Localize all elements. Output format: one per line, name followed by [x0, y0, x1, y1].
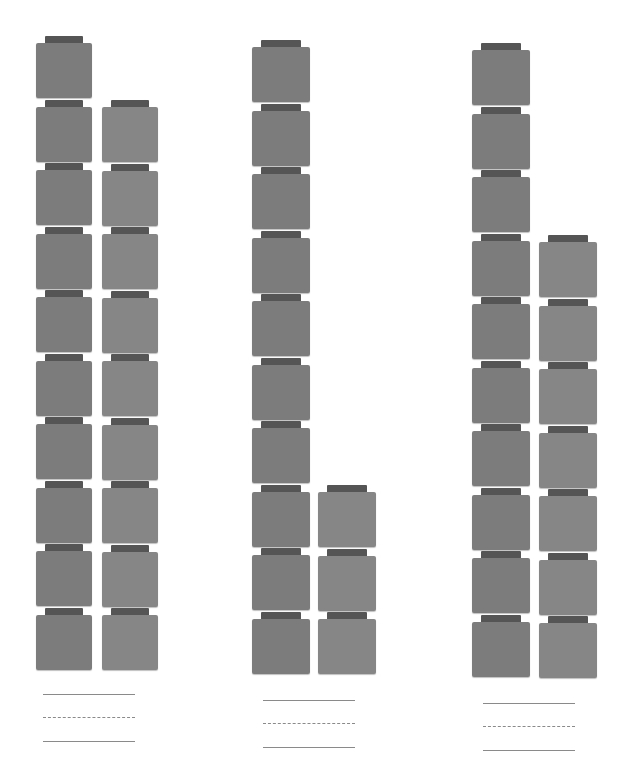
unit-cube	[539, 426, 597, 490]
cube-face	[102, 425, 158, 480]
unit-cube	[318, 549, 376, 613]
cube-face	[318, 492, 376, 547]
unit-cube	[472, 234, 530, 298]
unit-cube	[252, 421, 310, 485]
cube-face	[539, 496, 597, 551]
top-line	[263, 700, 355, 701]
cube-face	[252, 428, 310, 483]
unit-cube	[539, 553, 597, 617]
unit-cube	[252, 231, 310, 295]
cube-face	[102, 298, 158, 353]
unit-cube	[539, 489, 597, 553]
cube-face	[36, 551, 92, 606]
unit-cube	[102, 354, 158, 418]
cube-face	[472, 558, 530, 613]
ones-column	[318, 485, 376, 676]
cube-face	[36, 43, 92, 98]
unit-cube	[472, 488, 530, 552]
midline-dashed	[483, 726, 575, 727]
unit-cube	[252, 294, 310, 358]
cube-face	[36, 615, 92, 670]
baseline	[483, 750, 575, 751]
cube-face	[539, 433, 597, 488]
cube-face	[252, 301, 310, 356]
cube-face	[472, 241, 530, 296]
cube-face	[36, 361, 92, 416]
cube-face	[252, 555, 310, 610]
cube-face	[252, 174, 310, 229]
unit-cube	[539, 616, 597, 680]
cube-face	[252, 238, 310, 293]
unit-cube	[472, 43, 530, 107]
cube-face	[472, 495, 530, 550]
unit-cube	[102, 227, 158, 291]
unit-cube	[318, 612, 376, 676]
cube-face	[539, 623, 597, 678]
unit-cube	[102, 481, 158, 545]
tens-rod	[252, 40, 310, 675]
top-line	[43, 694, 135, 695]
tens-rod	[36, 36, 92, 671]
cube-face	[102, 361, 158, 416]
cube-face	[36, 424, 92, 479]
top-line	[483, 703, 575, 704]
cube-face	[252, 365, 310, 420]
unit-cube	[252, 485, 310, 549]
cube-face	[539, 242, 597, 297]
unit-cube	[252, 548, 310, 612]
ones-column	[102, 100, 158, 672]
cube-face	[36, 488, 92, 543]
unit-cube	[102, 164, 158, 228]
unit-cube	[102, 291, 158, 355]
cube-face	[472, 622, 530, 677]
unit-cube	[36, 227, 92, 291]
unit-cube	[102, 608, 158, 672]
answer-writing-lines[interactable]	[483, 703, 575, 753]
cube-face	[102, 234, 158, 289]
unit-cube	[318, 485, 376, 549]
unit-cube	[539, 235, 597, 299]
cube-face	[102, 615, 158, 670]
cube-face	[472, 304, 530, 359]
unit-cube	[102, 418, 158, 482]
ones-column	[539, 235, 597, 680]
cube-face	[102, 107, 158, 162]
cube-face	[539, 306, 597, 361]
unit-cube	[472, 361, 530, 425]
cube-face	[472, 114, 530, 169]
cube-face	[539, 560, 597, 615]
cube-face	[36, 234, 92, 289]
cube-face	[36, 170, 92, 225]
unit-cube	[36, 544, 92, 608]
cube-face	[102, 552, 158, 607]
midline-dashed	[263, 723, 355, 724]
unit-cube	[252, 612, 310, 676]
unit-cube	[36, 608, 92, 672]
unit-cube	[472, 551, 530, 615]
baseline	[43, 741, 135, 742]
unit-cube	[252, 358, 310, 422]
unit-cube	[472, 424, 530, 488]
unit-cube	[36, 290, 92, 354]
cube-face	[472, 431, 530, 486]
unit-cube	[102, 100, 158, 164]
cube-face	[252, 47, 310, 102]
cube-face	[102, 488, 158, 543]
answer-writing-lines[interactable]	[43, 694, 135, 744]
cube-face	[36, 297, 92, 352]
unit-cube	[252, 40, 310, 104]
cube-face	[472, 50, 530, 105]
unit-cube	[36, 100, 92, 164]
unit-cube	[472, 615, 530, 679]
cube-face	[252, 492, 310, 547]
unit-cube	[36, 36, 92, 100]
unit-cube	[252, 167, 310, 231]
unit-cube	[472, 107, 530, 171]
cube-face	[472, 177, 530, 232]
cube-face	[252, 111, 310, 166]
cube-face	[539, 369, 597, 424]
unit-cube	[472, 170, 530, 234]
answer-writing-lines[interactable]	[263, 700, 355, 750]
unit-cube	[36, 163, 92, 227]
unit-cube	[102, 545, 158, 609]
